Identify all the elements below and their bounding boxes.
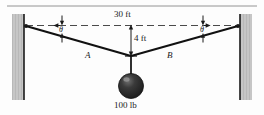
cable-a-label: A: [85, 51, 91, 60]
ball-highlight: [123, 77, 129, 81]
diagram-canvas: [0, 0, 264, 115]
cable-b-label: B: [167, 51, 173, 60]
cable-segment-b: [131, 26, 238, 56]
left-wall: [12, 14, 24, 100]
sag-dimension: [129, 24, 133, 56]
cable-segment-a: [26, 26, 131, 56]
sag-dimension-label: 4 ft: [134, 34, 146, 43]
weight-label: 100 lb: [114, 101, 137, 110]
theta-left-label: θ: [59, 26, 63, 34]
suspended-ball: [119, 74, 144, 99]
right-wall: [240, 14, 252, 100]
theta-right-label: θ: [200, 26, 204, 34]
span-dimension-label: 30 ft: [114, 10, 131, 19]
statics-cable-diagram: 30 ft 4 ft θ θ A B 100 lb: [0, 0, 264, 115]
